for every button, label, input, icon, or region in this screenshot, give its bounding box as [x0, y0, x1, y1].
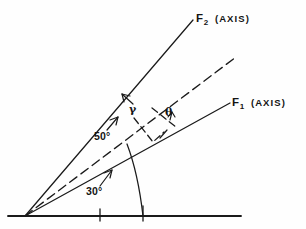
- diagram-canvas: [0, 0, 306, 229]
- force-1-subscript: 1: [240, 102, 245, 111]
- force-axis-diagram: F2(AXIS) F1(AXIS) 50° 30° γ θ: [0, 0, 306, 229]
- force-2-symbol: F: [196, 12, 203, 24]
- label-angle-theta: θ: [165, 107, 172, 118]
- perpendicular-corner-tick: [160, 130, 167, 138]
- ray-f1-axis: [25, 103, 230, 216]
- label-force-2: F2(AXIS): [196, 13, 250, 25]
- ray-bisector-dashed: [25, 57, 236, 216]
- label-force-1: F1(AXIS): [232, 97, 286, 109]
- label-angle-50-degree: 50°: [94, 131, 110, 142]
- force-2-subscript: 2: [204, 18, 209, 27]
- force-1-axis-text: (AXIS): [251, 97, 286, 108]
- force-2-axis-text: (AXIS): [215, 13, 250, 24]
- label-angle-gamma: γ: [129, 104, 136, 115]
- label-angle-30-degree: 30°: [86, 186, 102, 197]
- force-1-symbol: F: [232, 96, 239, 108]
